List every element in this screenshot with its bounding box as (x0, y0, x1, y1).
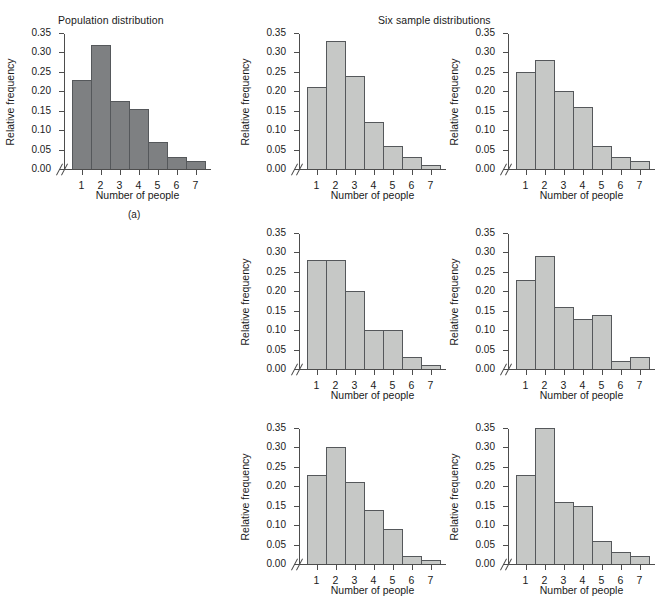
y-axis-tick: 0.10 (294, 330, 299, 331)
plot-area: 0.000.050.100.150.200.250.300.351234567 (508, 234, 648, 370)
y-axis-tick: 0.25 (503, 72, 508, 73)
bar (148, 142, 168, 169)
y-axis-tick: 0.35 (503, 33, 508, 34)
x-axis-tick (167, 170, 186, 175)
y-axis-tick: 0.00 (294, 169, 299, 170)
y-axis-tick: 0.10 (503, 330, 508, 331)
bar (402, 556, 422, 564)
figure-root: Population distribution Six sample distr… (0, 0, 667, 609)
x-axis-tick (611, 170, 630, 175)
x-axis-tick (91, 170, 110, 175)
chart-sample-6: 0.000.050.100.150.200.250.300.351234567R… (452, 421, 667, 606)
bar (326, 41, 346, 169)
y-axis-tick: 0.15 (503, 506, 508, 507)
bar-group (72, 34, 205, 169)
y-axis-tick-label: 0.00 (267, 364, 286, 374)
axis-break-marker (499, 558, 515, 572)
y-axis-tick-label: 0.30 (476, 47, 495, 57)
plot-area: 0.000.050.100.150.200.250.300.351234567 (64, 34, 204, 170)
y-axis-tick-label: 0.15 (267, 106, 286, 116)
x-axis-tick (402, 370, 421, 375)
y-axis-tick-label: 0.00 (32, 164, 51, 174)
y-axis-label: Relative frequency (4, 59, 16, 146)
bar (402, 157, 422, 169)
y-axis-tick-label: 0.10 (476, 325, 495, 335)
y-axis-tick-label: 0.25 (267, 267, 286, 277)
y-axis-tick-label: 0.25 (267, 462, 286, 472)
x-axis-tick (186, 170, 205, 175)
y-axis-tick: 0.35 (294, 428, 299, 429)
plot-area: 0.000.050.100.150.200.250.300.351234567 (299, 429, 439, 565)
y-axis-tick: 0.35 (294, 33, 299, 34)
bar (383, 146, 403, 169)
x-axis-tick (421, 370, 440, 375)
x-axis-tick (129, 170, 148, 175)
bar (402, 357, 422, 369)
chart-sample-5: 0.000.050.100.150.200.250.300.351234567R… (243, 421, 458, 606)
x-axis-tick (535, 370, 554, 375)
y-axis-tick-label: 0.20 (476, 481, 495, 491)
y-axis-tick-label: 0.20 (267, 86, 286, 96)
bar (186, 161, 206, 169)
x-axis-tick (110, 170, 129, 175)
x-axis-tick (421, 565, 440, 570)
y-axis-tick-label: 0.15 (32, 106, 51, 116)
chart-sample-4: 0.000.050.100.150.200.250.300.351234567R… (452, 226, 667, 411)
x-axis-ticks (72, 170, 205, 175)
bar (630, 556, 650, 564)
y-axis-tick: 0.35 (294, 233, 299, 234)
y-axis-label: Relative frequency (239, 59, 251, 146)
x-axis-label: Number of people (299, 584, 446, 596)
y-axis-tick: 0.30 (503, 447, 508, 448)
y-axis-tick-label: 0.35 (267, 28, 286, 38)
x-axis-tick (573, 170, 592, 175)
y-axis-tick: 0.00 (503, 564, 508, 565)
y-axis-tick: 0.00 (503, 369, 508, 370)
x-axis-tick (364, 565, 383, 570)
y-axis-tick: 0.05 (294, 545, 299, 546)
y-axis-tick-label: 0.10 (32, 125, 51, 135)
y-axis-tick-label: 0.05 (476, 145, 495, 155)
x-axis-tick (611, 565, 630, 570)
x-axis-tick (364, 370, 383, 375)
x-axis-tick (516, 170, 535, 175)
x-axis-label: Number of people (299, 189, 446, 201)
x-axis-ticks (516, 565, 649, 570)
x-axis-tick (573, 565, 592, 570)
y-axis-tick-label: 0.20 (267, 286, 286, 296)
x-axis-tick (516, 370, 535, 375)
y-axis-tick: 0.30 (59, 52, 64, 53)
y-axis-tick: 0.25 (503, 467, 508, 468)
y-axis-line (508, 34, 509, 170)
x-axis-tick (383, 565, 402, 570)
y-axis-tick-label: 0.15 (476, 106, 495, 116)
bar (421, 560, 441, 564)
y-axis-tick: 0.25 (294, 72, 299, 73)
x-axis-tick (402, 565, 421, 570)
bar (573, 319, 593, 370)
bar (345, 76, 365, 169)
y-axis-tick-label: 0.15 (476, 501, 495, 511)
bar (611, 361, 631, 369)
y-axis-tick: 0.10 (503, 130, 508, 131)
y-axis-tick-label: 0.30 (267, 442, 286, 452)
plot-area: 0.000.050.100.150.200.250.300.351234567 (299, 34, 439, 170)
y-axis-line (299, 234, 300, 370)
bar (421, 165, 441, 169)
y-axis-tick-label: 0.25 (32, 67, 51, 77)
x-axis-ticks (516, 170, 649, 175)
bar (554, 307, 574, 369)
y-axis-line (64, 34, 65, 170)
plot-area: 0.000.050.100.150.200.250.300.351234567 (508, 429, 648, 565)
y-axis-tick-label: 0.30 (476, 247, 495, 257)
bar (307, 260, 327, 369)
y-axis-tick-label: 0.10 (267, 125, 286, 135)
y-axis-tick-label: 0.20 (267, 481, 286, 491)
x-axis-tick (383, 170, 402, 175)
y-axis-tick: 0.20 (294, 486, 299, 487)
y-axis-tick-label: 0.10 (267, 520, 286, 530)
axis-break-marker (499, 163, 515, 177)
y-axis-tick-label: 0.25 (476, 462, 495, 472)
y-axis-tick: 0.30 (503, 252, 508, 253)
y-axis-label: Relative frequency (239, 454, 251, 541)
